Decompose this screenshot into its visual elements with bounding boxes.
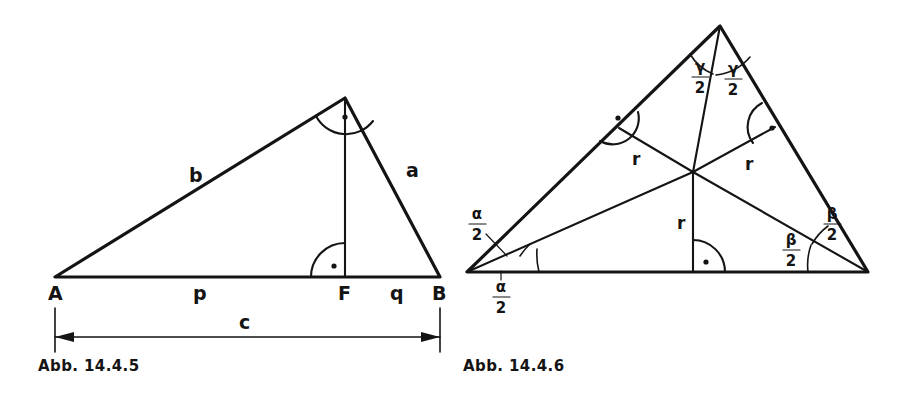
svg-text:γ: γ	[695, 58, 705, 76]
svg-text:β: β	[827, 205, 838, 223]
svg-text:γ: γ	[728, 60, 738, 78]
vertex-label-A: A	[48, 282, 63, 304]
angle-arc-A-lower	[537, 249, 539, 272]
inradius-label-left: r	[632, 149, 641, 169]
svg-text:α: α	[496, 278, 506, 296]
svg-text:α: α	[472, 205, 482, 223]
inradius-to-side-a	[693, 127, 775, 172]
svg-text:2: 2	[728, 81, 738, 99]
svg-text:β: β	[786, 231, 797, 249]
bisector-from-B	[693, 172, 868, 272]
angle-arc-B-upper	[812, 226, 828, 244]
bisector-from-A	[467, 172, 693, 272]
figure-14-4-5: A F B b a p q c Abb. 14.4.5	[38, 98, 446, 375]
triangle-outline-left	[55, 98, 440, 277]
angle-label-gamma-half-left: γ 2	[692, 58, 709, 97]
figure-14-4-6: r r r α 2 α 2 β 2 β 2 γ	[463, 26, 868, 375]
angle-label-alpha-half-lower: α 2	[493, 278, 510, 317]
figure-canvas: A F B b a p q c Abb. 14.4.5	[0, 0, 907, 395]
angle-label-beta-half-lower: β 2	[783, 231, 800, 270]
figure-caption-right: Abb. 14.4.6	[463, 357, 565, 375]
svg-text:2: 2	[786, 252, 796, 270]
triangle-outline-right	[467, 26, 868, 272]
segment-label-q: q	[390, 282, 404, 304]
right-angle-marker-side-c	[693, 240, 725, 272]
angle-label-alpha-half-upper: α 2	[469, 205, 486, 244]
inradius-to-side-b	[619, 128, 693, 172]
vertex-label-B: B	[432, 282, 446, 304]
angle-arc-B-lower	[808, 245, 811, 272]
inradius-label-bottom: r	[677, 213, 686, 233]
vertex-label-F: F	[338, 282, 351, 304]
segment-label-p: p	[193, 282, 207, 304]
side-label-b: b	[189, 164, 203, 186]
dimension-label-c: c	[239, 311, 250, 333]
inradius-label-right: r	[745, 154, 754, 174]
right-angle-marker-at-F	[311, 243, 345, 277]
svg-text:2: 2	[496, 299, 506, 317]
svg-text:2: 2	[695, 79, 705, 97]
svg-text:2: 2	[827, 226, 837, 244]
figure-caption-left: Abb. 14.4.5	[38, 357, 140, 375]
side-label-a: a	[406, 159, 419, 181]
svg-text:2: 2	[472, 226, 482, 244]
angle-label-beta-half-upper: β 2	[824, 205, 841, 244]
